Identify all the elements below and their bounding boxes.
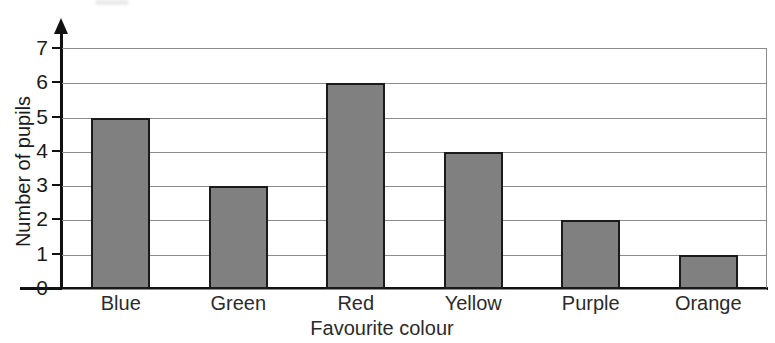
gridline [62, 255, 767, 256]
x-axis-label-purple: Purple [532, 292, 650, 314]
y-axis-tick [52, 184, 62, 186]
y-axis-tick-label: 5 [0, 106, 48, 128]
y-axis-tick-label: 1 [0, 243, 48, 265]
y-axis-tick-label: 7 [0, 37, 48, 59]
x-axis-label-blue: Blue [62, 292, 180, 314]
y-axis-tick-label: 4 [0, 140, 48, 162]
y-axis-tick-label-text: 3 [18, 174, 48, 195]
gridline [62, 118, 767, 119]
gridline [62, 152, 767, 153]
x-axis-label-red: Red [297, 292, 415, 314]
y-axis-tick [52, 116, 62, 118]
bar-red [326, 83, 385, 289]
y-axis-tick-label-text: 4 [18, 140, 48, 161]
bar-blue [91, 118, 150, 289]
x-axis-title: Favourite colour [62, 317, 702, 340]
y-axis-tick [52, 218, 62, 220]
y-axis-tick [52, 47, 62, 49]
x-axis-label-green: Green [180, 292, 298, 314]
gridline [62, 186, 767, 187]
gridline [62, 289, 767, 290]
plot-area [62, 48, 767, 288]
y-axis-tick [52, 287, 62, 289]
y-axis-tick-label-text: 0 [18, 277, 48, 298]
y-axis-tick-label-text: 1 [18, 243, 48, 264]
bar-chart-figure: Number of pupils 01234567 BlueGreenRedYe… [0, 0, 775, 343]
x-axis-label-yellow: Yellow [415, 292, 533, 314]
scan-artifact [95, 0, 129, 5]
y-axis-tick-label-text: 5 [18, 106, 48, 127]
y-axis-tick [52, 150, 62, 152]
bar-green [209, 186, 268, 289]
y-axis-tick-label: 2 [0, 208, 48, 230]
y-axis-tick-label: 0 [0, 277, 48, 299]
x-axis-label-orange: Orange [650, 292, 768, 314]
gridline [62, 220, 767, 221]
y-axis-tick-label: 3 [0, 174, 48, 196]
y-axis-tick [52, 81, 62, 83]
bar-orange [679, 255, 738, 289]
gridline [62, 83, 767, 84]
y-axis-tick-label-text: 6 [18, 71, 48, 92]
bar-purple [561, 220, 620, 289]
y-axis-tick [52, 253, 62, 255]
y-axis-tick-label-text: 7 [18, 37, 48, 58]
y-axis-tick-label-text: 2 [18, 208, 48, 229]
y-axis-tick-label: 6 [0, 71, 48, 93]
bar-yellow [444, 152, 503, 289]
